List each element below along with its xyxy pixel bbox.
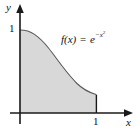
y-tick-label-1: 1 bbox=[9, 23, 15, 34]
exponent-group: −x2 bbox=[95, 31, 105, 39]
figure-container: y x 1 1 f(x) = e−x2 bbox=[0, 0, 140, 137]
equals-sign: = bbox=[76, 33, 90, 45]
x-tick-label-1: 1 bbox=[93, 116, 99, 127]
x-axis-label: x bbox=[126, 117, 131, 128]
function-argument: (x) bbox=[64, 33, 76, 45]
exponent-power: 2 bbox=[103, 30, 106, 35]
y-axis-label: y bbox=[6, 2, 11, 13]
function-annotation: f(x) = e−x2 bbox=[61, 31, 105, 45]
y-axis-arrow-icon bbox=[16, 4, 24, 13]
function-plot bbox=[0, 0, 140, 137]
